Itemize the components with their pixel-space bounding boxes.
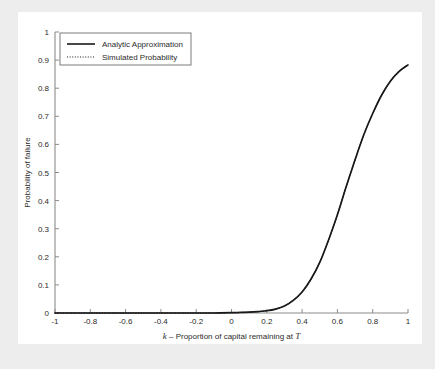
chart-series-line-1	[55, 65, 408, 313]
y-tick-label: 0	[45, 309, 50, 318]
y-tick-label: 0.2	[38, 253, 50, 262]
y-axis-title: Probability of failure	[23, 137, 32, 208]
legend-label-analytic-approximation: Analytic Approximation	[102, 40, 183, 49]
x-axis-title: k – Proportion of capital remaining at T	[163, 331, 302, 341]
plot-axes	[55, 32, 408, 313]
y-axis-ticks: 00.10.20.30.40.50.60.70.80.91	[38, 28, 59, 318]
x-tick-label: 0.8	[367, 317, 379, 326]
y-tick-label: 0.8	[38, 84, 50, 93]
chart-series-line-2	[55, 65, 408, 313]
y-tick-label: 0.4	[38, 197, 50, 206]
chart-legend[interactable]: Analytic Approximation Simulated Probabi…	[60, 33, 191, 65]
chart-series-group	[55, 65, 408, 313]
x-tick-label: -0.4	[154, 317, 168, 326]
x-tick-label: 0.4	[297, 317, 309, 326]
x-tick-label: -0.2	[189, 317, 203, 326]
y-tick-label: 0.9	[38, 56, 50, 65]
y-tick-label: 0.7	[38, 112, 50, 121]
figure-root: -1-0.8-0.6-0.4-0.200.20.40.60.81 00.10.2…	[0, 0, 435, 369]
y-tick-label: 0.5	[38, 169, 50, 178]
x-tick-label: -1	[51, 317, 59, 326]
y-tick-label: 0.3	[38, 225, 50, 234]
x-tick-label: -0.8	[83, 317, 97, 326]
y-tick-label: 0.1	[38, 281, 50, 290]
x-tick-label: 0.2	[261, 317, 273, 326]
y-tick-label: 0.6	[38, 140, 50, 149]
x-tick-label: -0.6	[119, 317, 133, 326]
x-tick-label: 1	[406, 317, 411, 326]
probability-of-failure-chart: -1-0.8-0.6-0.4-0.200.20.40.60.81 00.10.2…	[0, 0, 435, 369]
x-tick-label: 0	[229, 317, 234, 326]
x-tick-label: 0.6	[332, 317, 344, 326]
legend-label-simulated-probability: Simulated Probability	[102, 53, 177, 62]
x-axis-ticks: -1-0.8-0.6-0.4-0.200.20.40.60.81	[51, 309, 410, 326]
y-tick-label: 1	[45, 28, 50, 37]
